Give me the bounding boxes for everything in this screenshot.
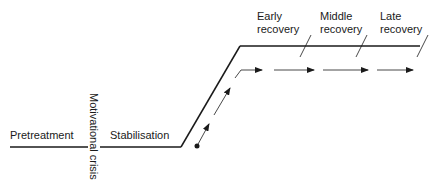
late-recovery-line2: recovery — [380, 23, 422, 36]
progress-arrows — [195, 70, 414, 149]
stage-label-middle-recovery: Middle recovery — [320, 10, 362, 36]
diagram-lines — [0, 0, 440, 193]
middle-recovery-line1: Middle — [320, 10, 362, 23]
stage-label-late-recovery: Late recovery — [380, 10, 422, 36]
stage-label-motivational-crisis: Motivational crisis — [88, 93, 100, 180]
middle-recovery-line2: recovery — [320, 23, 362, 36]
recovery-stages-diagram: Pretreatment Motivational crisis Stabili… — [0, 0, 440, 193]
early-recovery-line1: Early — [257, 10, 299, 23]
stage-label-stabilisation: Stabilisation — [110, 129, 169, 142]
early-recovery-line2: recovery — [257, 23, 299, 36]
stage-label-early-recovery: Early recovery — [257, 10, 299, 36]
stage-label-pretreatment: Pretreatment — [10, 129, 74, 142]
late-recovery-line1: Late — [380, 10, 422, 23]
